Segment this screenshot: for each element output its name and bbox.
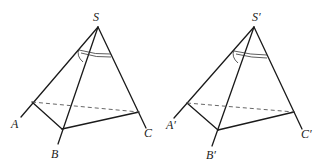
edge-ab (32, 102, 62, 129)
edge-sb (58, 27, 98, 144)
edge-sb (212, 27, 254, 146)
edge-ab (187, 103, 218, 130)
label-a: A (10, 117, 19, 131)
label-c: C′ (301, 127, 312, 141)
edge-sa (174, 27, 254, 118)
label-c: C (144, 126, 153, 140)
edge-ac-hidden (187, 103, 294, 112)
pyramid-1: S A B C (10, 10, 153, 161)
label-a: A′ (165, 118, 176, 132)
edge-sa (21, 27, 98, 117)
label-apex: S (93, 10, 99, 24)
edge-sc (254, 27, 302, 129)
label-b: B′ (206, 148, 216, 162)
pyramid-2: S′ A′ B′ C′ (165, 10, 312, 162)
edge-bc (62, 112, 139, 129)
label-apex: S′ (252, 10, 261, 24)
edge-sc (98, 27, 146, 128)
edge-ac-hidden (32, 102, 139, 112)
edge-bc (218, 112, 294, 130)
label-b: B (51, 147, 59, 161)
diagram-canvas: S A B C S′ A′ B′ C′ (0, 0, 322, 167)
